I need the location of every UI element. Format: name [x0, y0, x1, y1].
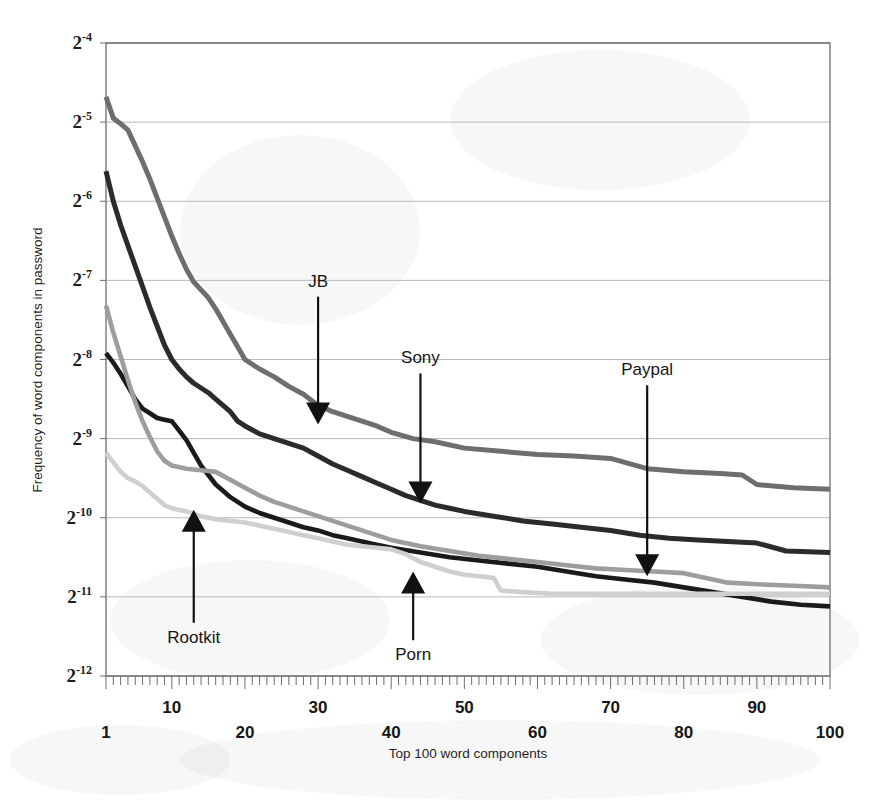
y-tick-label: 2-7 [73, 267, 93, 290]
x-tick-label: 60 [528, 723, 547, 742]
annotation-label-paypal: Paypal [621, 360, 673, 379]
x-tick-label: 10 [162, 698, 181, 717]
x-tick-label: 80 [674, 723, 693, 742]
y-tick-label: 2-12 [67, 663, 93, 686]
figure-container: 2-42-52-62-72-82-92-102-112-12 110203040… [0, 0, 878, 804]
x-axis-title: Top 100 word components [389, 746, 548, 761]
annotation-label-rootkit: Rootkit [167, 628, 220, 647]
y-tick-label: 2-5 [73, 109, 93, 132]
y-tick-label: 2-6 [73, 188, 93, 211]
y-axis-title: Frequency of word components in password [30, 228, 45, 493]
y-axis-tick-labels: 2-42-52-62-72-82-92-102-112-12 [67, 30, 107, 686]
annotation-label-sony: Sony [401, 348, 440, 367]
paper-texture [10, 50, 860, 800]
y-tick-label: 2-11 [67, 584, 92, 607]
x-tick-label: 50 [455, 698, 474, 717]
x-tick-label: 40 [382, 723, 401, 742]
x-tick-label: 70 [601, 698, 620, 717]
annotation-arrow-head [306, 402, 330, 424]
frequency-line-chart: 2-42-52-62-72-82-92-102-112-12 110203040… [0, 0, 878, 804]
x-tick-label: 100 [816, 723, 844, 742]
x-tick-label: 20 [235, 723, 254, 742]
y-tick-label: 2-4 [73, 30, 93, 53]
y-tick-label: 2-8 [73, 347, 93, 370]
y-tick-label: 2-9 [73, 426, 93, 449]
y-tick-label: 2-10 [67, 505, 93, 528]
x-tick-label: 90 [747, 698, 766, 717]
annotation-label-porn: Porn [395, 645, 431, 664]
annotation-label-jb: JB [308, 272, 328, 291]
x-tick-label: 1 [101, 723, 110, 742]
x-tick-label: 30 [309, 698, 328, 717]
annotation-arrow-head [401, 572, 425, 594]
